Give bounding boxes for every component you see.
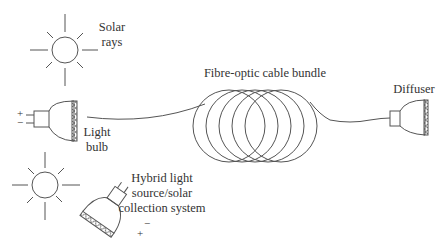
label-line: rays: [94, 35, 130, 50]
minus-sign: −: [142, 216, 152, 231]
label-light-bulb: Light bulb: [80, 125, 114, 155]
sun-icon: [30, 14, 98, 86]
diagram-canvas: [0, 0, 444, 249]
label-line: Light: [80, 125, 114, 140]
light-bulb-icon: [26, 101, 77, 141]
label-fibre-optic-cable-bundle: Fibre-optic cable bundle: [195, 66, 335, 81]
label-diffuser: Diffuser: [390, 82, 438, 97]
label-line: source/solar: [112, 186, 212, 201]
label-hybrid-collector: Hybrid light source/solar collection sys…: [112, 171, 212, 216]
sun-icon: [12, 152, 80, 220]
label-line: collection system: [112, 201, 212, 216]
cable-coil-icon: [193, 90, 317, 162]
diffuser-icon: [390, 100, 428, 135]
fibre-optic-cable-out: [310, 102, 390, 122]
label-line: Solar: [94, 20, 130, 35]
label-line: bulb: [80, 140, 114, 155]
label-line: Hybrid light: [112, 171, 212, 186]
label-solar-rays: Solar rays: [94, 20, 130, 50]
fibre-optic-cable-in: [87, 104, 205, 119]
minus-sign: −: [15, 115, 25, 130]
